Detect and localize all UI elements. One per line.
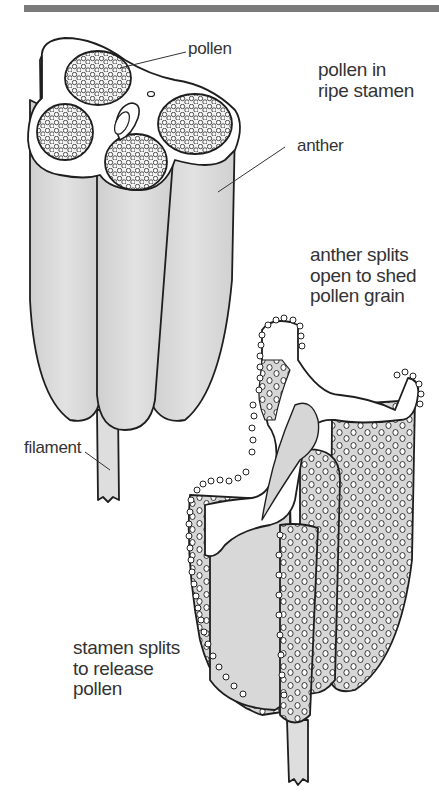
- caption-stamen-line3: pollen: [73, 679, 180, 700]
- caption-anther-splits: anther splits open to shed pollen grain: [310, 245, 416, 307]
- caption-ripe-stamen: pollen in ripe stamen: [318, 60, 414, 101]
- split-stamen-figure: [186, 315, 424, 785]
- filament-shape-split: [287, 720, 308, 785]
- caption-anther-line1: anther splits: [310, 245, 416, 266]
- pollen-sac-left: [37, 104, 93, 160]
- pollen-sac-back: [65, 51, 131, 105]
- label-anther: anther: [297, 137, 343, 155]
- caption-stamen-splits: stamen splits to release pollen: [73, 638, 180, 700]
- stamen-illustration: [0, 0, 439, 803]
- caption-stamen-line2: to release: [73, 659, 180, 680]
- ripe-stamen-figure: [28, 38, 240, 502]
- label-filament: filament: [24, 439, 81, 457]
- caption-anther-line3: pollen grain: [310, 286, 416, 307]
- pollen-sac-front: [105, 134, 167, 190]
- caption-ripe-line1: pollen in: [318, 60, 414, 81]
- pollen-sac-right: [158, 94, 232, 154]
- caption-anther-line2: open to shed: [310, 266, 416, 287]
- caption-stamen-line1: stamen splits: [73, 638, 180, 659]
- caption-ripe-line2: ripe stamen: [318, 81, 414, 102]
- label-pollen: pollen: [188, 40, 232, 58]
